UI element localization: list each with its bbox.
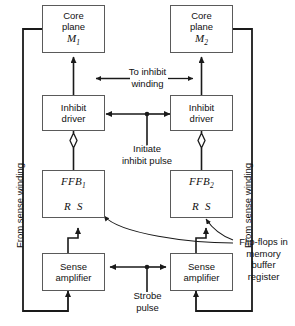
box-ffb-2[interactable]: FFB2 RS: [170, 170, 233, 218]
box-sense-amplifier-1[interactable]: Sense amplifier: [42, 253, 105, 291]
core-plane-1-line1: Core: [63, 10, 84, 22]
ffb-2-label: FFB2: [189, 176, 214, 192]
box-inhibit-driver-2[interactable]: Inhibit driver: [170, 95, 233, 131]
label-initiate-inhibit-pulse: Initiate inhibit pulse: [97, 143, 197, 166]
diagram-canvas: Core plane M1 Core plane M2 Inhibit driv…: [0, 0, 295, 326]
strobe-pulse-line2: pulse: [110, 302, 185, 314]
callout-arrow-to-ffb1: [104, 216, 233, 243]
inhibit-driver-2-line1: Inhibit: [189, 102, 214, 114]
inhibit-driver-1-line1: Inhibit: [61, 102, 86, 114]
junction-dot-initiate: [145, 112, 150, 117]
core-plane-1-label: M1: [67, 33, 80, 49]
sense-amplifier-2-line1: Sense: [188, 261, 215, 273]
box-ffb-1[interactable]: FFB1 RS: [42, 170, 105, 218]
sense-amplifier-2-line2: amplifier: [184, 272, 220, 284]
ffb-2-inputs: RS: [189, 201, 214, 213]
flip-flops-line4: register: [232, 271, 295, 283]
inhibit-driver-1-line2: driver: [62, 113, 86, 125]
core-plane-2-line1: Core: [191, 10, 212, 22]
box-sense-amplifier-2[interactable]: Sense amplifier: [170, 253, 233, 291]
ffb-1-label: FFB1: [61, 176, 86, 192]
sense-amplifier-1-line2: amplifier: [56, 272, 92, 284]
flip-flops-line3: buffer: [232, 259, 295, 271]
strobe-pulse-line1: Strobe: [110, 290, 185, 302]
label-to-inhibit-winding: To inhibit winding: [0, 66, 295, 89]
wire-senseamp2-to-ffb2: [196, 228, 206, 253]
label-strobe-pulse: Strobe pulse: [110, 290, 185, 313]
initiate-inhibit-line1: Initiate: [97, 143, 197, 155]
sense-amplifier-1-line1: Sense: [60, 261, 87, 273]
ffb-1-inputs: RS: [61, 201, 86, 213]
initiate-inhibit-line2: inhibit pulse: [97, 155, 197, 167]
junction-dot-strobe: [145, 265, 150, 270]
flip-flops-line2: memory: [232, 248, 295, 260]
to-inhibit-winding-line1: To inhibit: [0, 66, 295, 78]
core-plane-2-label: M2: [195, 33, 208, 49]
box-inhibit-driver-1[interactable]: Inhibit driver: [42, 95, 105, 131]
callout-arrow-to-ffb2: [206, 219, 233, 240]
inhibit-driver-2-line2: driver: [190, 113, 214, 125]
label-from-sense-winding-left: From sense winding: [14, 163, 25, 248]
annotation-flip-flops: Flip-flops in memory buffer register: [232, 236, 295, 282]
diamond-connector-1: [70, 133, 77, 148]
box-core-plane-1[interactable]: Core plane M1: [42, 5, 105, 53]
to-inhibit-winding-line2: winding: [0, 78, 295, 90]
diamond-connector-2: [198, 133, 205, 148]
wire-senseamp1-to-ffb1: [68, 228, 78, 253]
flip-flops-line1: Flip-flops in: [232, 236, 295, 248]
box-core-plane-2[interactable]: Core plane M2: [170, 5, 233, 53]
